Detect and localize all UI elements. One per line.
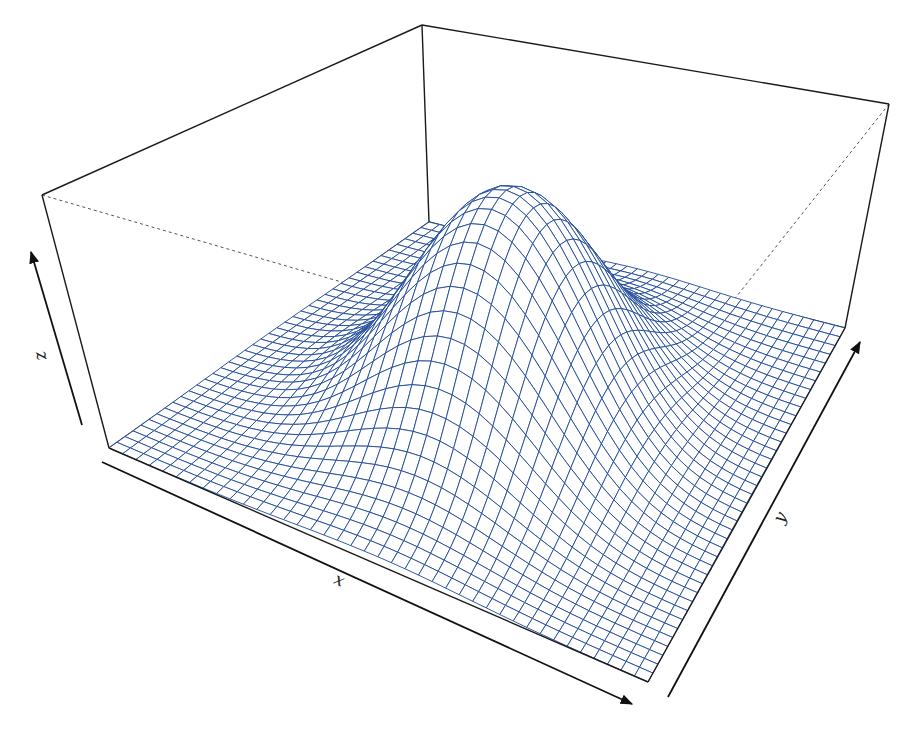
edge-top-back-right (422, 25, 889, 104)
z-axis-label: z (32, 347, 54, 363)
edge-top-left-back (42, 25, 422, 195)
y-axis-label: y (768, 508, 791, 527)
edge-back-vertical (422, 25, 429, 222)
edge-right-vertical (845, 104, 889, 328)
z-axis-arrow (31, 252, 82, 425)
x-axis-label: x (331, 568, 348, 590)
perspective-surface-plot: x y z (0, 0, 915, 731)
